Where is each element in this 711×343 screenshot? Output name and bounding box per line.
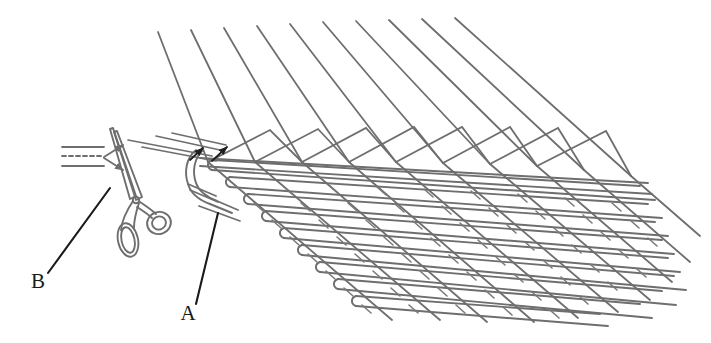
label-a: A	[180, 301, 196, 325]
figure-container: B A	[0, 0, 711, 343]
label-b: B	[31, 269, 45, 293]
weaving-diagram: B A	[0, 0, 711, 343]
